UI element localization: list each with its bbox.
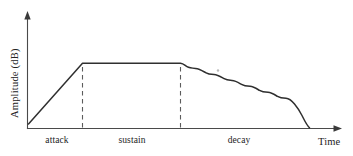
y-axis-label: Amplitude (dB) <box>9 48 21 118</box>
scan-speck-artifact <box>217 69 219 71</box>
adsr-envelope-chart: Amplitude (dB) Time attack sustain decay <box>0 0 353 156</box>
x-axis-arrow-icon <box>334 125 343 131</box>
adsr-envelope-curve <box>29 63 310 128</box>
phase-label-sustain: sustain <box>118 135 145 145</box>
x-axis-label: Time <box>318 136 341 147</box>
phase-label-decay: decay <box>228 135 251 145</box>
y-axis-arrow-icon <box>24 11 30 20</box>
phase-label-attack: attack <box>45 135 68 145</box>
adsr-envelope-figure: Amplitude (dB) Time attack sustain decay <box>0 0 353 156</box>
